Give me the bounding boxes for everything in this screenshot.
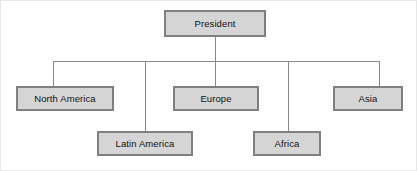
node-north-america-label: North America bbox=[34, 94, 96, 104]
node-president-label: President bbox=[194, 19, 235, 29]
node-africa-label: Africa bbox=[275, 139, 300, 149]
org-chart-page: President North America Latin America Eu… bbox=[0, 0, 417, 171]
node-europe-label: Europe bbox=[200, 94, 231, 104]
node-asia-label: Asia bbox=[359, 94, 378, 104]
node-north-america[interactable]: North America bbox=[16, 86, 114, 111]
node-asia[interactable]: Asia bbox=[333, 86, 403, 111]
node-president[interactable]: President bbox=[164, 10, 266, 37]
node-latin-america[interactable]: Latin America bbox=[97, 131, 193, 156]
node-africa[interactable]: Africa bbox=[253, 131, 321, 156]
node-europe[interactable]: Europe bbox=[173, 86, 259, 111]
node-latin-america-label: Latin America bbox=[116, 139, 175, 149]
